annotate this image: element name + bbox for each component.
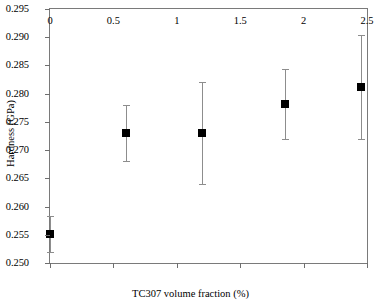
y-axis-tick-label: 0.295 (0, 4, 29, 15)
plot-area (50, 9, 367, 263)
x-axis-tick-label: 0 (32, 16, 68, 27)
x-axis-tick-label: 1.5 (222, 16, 258, 27)
x-axis-tick-label: 1 (159, 16, 195, 27)
error-bar-cap (47, 216, 54, 217)
data-point-marker (122, 129, 130, 137)
y-axis-tick (45, 235, 50, 236)
x-axis-tick (304, 263, 305, 268)
hardness-vs-volume-fraction-chart: 0.2500.2550.2600.2650.2700.2750.2800.285… (0, 0, 381, 307)
y-axis-title: Hardness (GPa) (5, 79, 16, 189)
y-axis-tick (45, 94, 50, 95)
x-axis-tick-label: 2 (286, 16, 322, 27)
error-bar-cap (199, 184, 206, 185)
error-bar-cap (47, 252, 54, 253)
x-axis-tick (240, 263, 241, 268)
x-axis-tick (113, 263, 114, 268)
x-axis-title: TC307 volume fraction (%) (0, 288, 381, 299)
error-bar-cap (358, 35, 365, 36)
y-axis-tick-label: 0.285 (0, 60, 29, 71)
y-axis-tick-label: 0.290 (0, 32, 29, 43)
error-bar-cap (282, 69, 289, 70)
y-axis-tick-label: 0.260 (0, 202, 29, 213)
y-axis-tick (45, 9, 50, 10)
error-bar-cap (282, 139, 289, 140)
y-axis-tick (45, 65, 50, 66)
data-point-marker (357, 83, 365, 91)
error-bar-cap (123, 161, 130, 162)
data-point-marker (46, 230, 54, 238)
x-axis-tick-label: 0.5 (95, 16, 131, 27)
x-axis-tick (177, 263, 178, 268)
error-bar-cap (123, 105, 130, 106)
y-axis-tick (45, 122, 50, 123)
error-bar-cap (358, 139, 365, 140)
data-point-marker (281, 100, 289, 108)
y-axis-tick-label: 0.250 (0, 258, 29, 269)
y-axis-tick-label: 0.255 (0, 230, 29, 241)
y-axis-tick (45, 207, 50, 208)
x-axis-tick-label: 2.5 (349, 16, 381, 27)
data-point-marker (198, 129, 206, 137)
x-axis-tick (367, 263, 368, 268)
x-axis-tick (50, 263, 51, 268)
y-axis-tick (45, 37, 50, 38)
y-axis-tick (45, 150, 50, 151)
y-axis-tick (45, 178, 50, 179)
error-bar-cap (199, 82, 206, 83)
plot-frame: 0.2500.2550.2600.2650.2700.2750.2800.285… (49, 8, 368, 264)
